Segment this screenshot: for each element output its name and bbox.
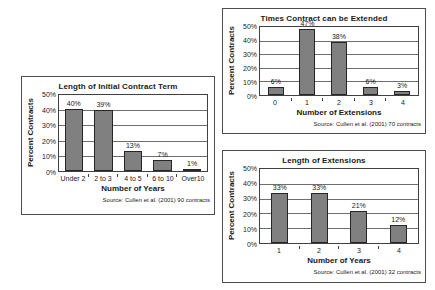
y-tick-label: 40% [42,106,56,113]
source-note: Source: Cullen et al. (2001) 70 contract… [223,120,425,128]
x-tick-label: 3 [355,99,387,107]
x-tick-label: 2 [299,247,339,255]
y-tick-label: 50% [243,165,257,172]
plot-area: Percent Contracts0%10%20%30%40%50%6%47%3… [226,26,419,96]
bar-slot: 1% [177,95,207,171]
bar-slot: 33% [260,169,300,243]
x-tick-label: 2 [323,99,355,107]
y-tick-label: 30% [42,122,56,129]
bar-series: 33%33%21%12% [260,169,418,243]
bar-value-label: 33% [312,184,326,191]
x-tick-label: 6 to 10 [148,175,178,183]
bar-slot: 7% [148,95,178,171]
y-tick-label: 0% [247,93,257,100]
y-tick-label: 20% [42,137,56,144]
bar-value-label: 13% [126,142,140,149]
y-axis-ticks: 0%10%20%30%40%50% [237,26,259,96]
x-tick-label: 3 [339,247,379,255]
y-tick-label: 30% [243,195,257,202]
x-axis-ticks: 01234 [259,99,419,107]
bar-slot: 40% [59,95,89,171]
bar-value-label: 33% [273,184,287,191]
bar-value-label: 47% [300,20,314,27]
x-axis-ticks: 1234 [259,247,419,255]
bar [311,193,328,243]
bar [268,87,284,95]
x-tick-label: 4 [387,99,419,107]
y-axis-title: Percent Contracts [226,26,237,96]
chart-length-of-extensions: Length of ExtensionsPercent Contracts0%1… [222,150,426,283]
chart-length-of-initial-contract-term: Length of Initial Contract TermPercent C… [21,76,215,215]
bar [94,110,112,171]
y-tick-label: 10% [243,79,257,86]
bar [124,151,142,171]
plot-box: 6%47%38%6%3% [259,26,419,96]
y-tick-label: 20% [243,210,257,217]
y-tick-label: 40% [243,180,257,187]
bar [65,109,83,171]
bar [153,160,171,171]
y-tick-label: 10% [42,153,56,160]
bar-slot: 13% [118,95,148,171]
bar [331,42,347,95]
y-tick-label: 50% [243,23,257,30]
bar-slot: 38% [323,27,355,95]
plot-box: 40%39%13%7%1% [58,94,208,172]
bar-slot: 21% [339,169,379,243]
y-axis-ticks: 0%10%20%30%40%50% [237,168,259,244]
x-axis-title: Number of Years [259,256,419,266]
y-tick-label: 50% [42,91,56,98]
x-axis-ticks: Under 22 to 34 to 56 to 10Over10 [58,175,208,183]
bar-value-label: 3% [397,82,407,89]
bar-slot: 6% [355,27,387,95]
bar-value-label: 1% [187,160,197,167]
y-tick-label: 30% [243,51,257,58]
x-tick-label: 1 [291,99,323,107]
plot-box: 33%33%21%12% [259,168,419,244]
plot-area: Percent Contracts0%10%20%30%40%50%40%39%… [25,94,208,172]
bar [183,169,201,171]
bar-slot: 3% [386,27,418,95]
bar-series: 6%47%38%6%3% [260,27,418,95]
y-axis-title: Percent Contracts [25,94,36,172]
bar-slot: 6% [260,27,292,95]
bar [350,211,367,243]
x-tick-label: 1 [259,247,299,255]
bar-value-label: 6% [366,78,376,85]
bar-value-label: 38% [332,33,346,40]
x-tick-label: 4 [379,247,419,255]
bar [271,193,288,243]
bar-value-label: 12% [391,216,405,223]
y-tick-label: 0% [46,169,56,176]
bar-slot: 39% [89,95,119,171]
bar-value-label: 7% [158,151,168,158]
y-axis-title: Percent Contracts [226,168,237,244]
bar [390,225,407,243]
bar-value-label: 21% [352,202,366,209]
x-tick-label: Over10 [178,175,208,183]
bar-slot: 33% [300,169,340,243]
bar-slot: 12% [379,169,419,243]
bar-value-label: 39% [96,101,110,108]
y-tick-label: 10% [243,225,257,232]
x-axis-title: Number of Years [58,184,208,194]
x-tick-label: 4 to 5 [118,175,148,183]
x-tick-label: 0 [259,99,291,107]
bar-slot: 47% [292,27,324,95]
x-tick-label: 2 to 3 [88,175,118,183]
y-tick-label: 0% [247,241,257,248]
x-axis-title: Number of Extensions [259,108,419,118]
source-note: Source: Cullen et al. (2001) 90 contract… [22,196,214,204]
bar-series: 40%39%13%7%1% [59,95,207,171]
y-axis-ticks: 0%10%20%30%40%50% [36,94,58,172]
y-tick-label: 40% [243,37,257,44]
source-note: Source: Cullen et al. (2001) 32 contract… [223,268,425,276]
x-tick-label: Under 2 [58,175,88,183]
bar-value-label: 40% [67,100,81,107]
bar [394,91,410,95]
plot-area: Percent Contracts0%10%20%30%40%50%33%33%… [226,168,419,244]
bar-value-label: 6% [271,78,281,85]
y-tick-label: 20% [243,65,257,72]
bar [363,87,379,95]
chart-times-contract-can-be-extended: Times Contract can be ExtendedPercent Co… [222,8,426,134]
